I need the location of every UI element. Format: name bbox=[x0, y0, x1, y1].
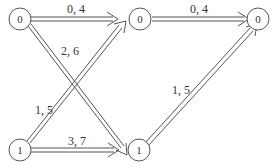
node-label: 1 bbox=[136, 144, 142, 156]
node-n5: 1 bbox=[128, 139, 150, 161]
edge-n4-n2 bbox=[27, 21, 126, 143]
network-diagram: 0 0 0 1 1 0, 4 2, 6 1, 5 3, 7 0, 4 1, 5 bbox=[0, 0, 276, 166]
node-n4: 1 bbox=[9, 139, 31, 161]
node-label: 0 bbox=[17, 13, 23, 25]
edge-label-n4-n2: 1, 5 bbox=[35, 103, 53, 117]
node-label: 0 bbox=[137, 13, 143, 25]
node-label: 0 bbox=[255, 13, 261, 25]
edge-label-n4-n5: 3, 7 bbox=[68, 134, 86, 148]
edge-label-n1-n2: 0, 4 bbox=[67, 2, 85, 16]
node-label: 1 bbox=[17, 144, 23, 156]
node-n2: 0 bbox=[129, 8, 151, 30]
edge-label-n5-n3: 1, 5 bbox=[172, 83, 190, 97]
edge-label-n1-n5: 2, 6 bbox=[61, 44, 79, 58]
node-n3: 0 bbox=[247, 8, 269, 30]
edge-n5-n3 bbox=[145, 24, 257, 146]
edge-label-n2-n3: 0, 4 bbox=[190, 2, 208, 16]
node-n1: 0 bbox=[9, 8, 31, 30]
